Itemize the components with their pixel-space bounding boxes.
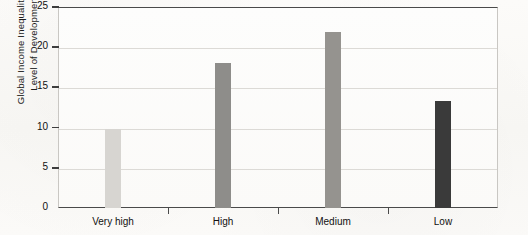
bar-medium: [325, 32, 341, 208]
x-axis-tick-mark: [278, 208, 279, 214]
gridline: [59, 169, 497, 170]
plot-area: [58, 7, 498, 208]
y-axis-title: Global Income Inequality by Level of Dev…: [15, 0, 45, 133]
y-axis-tick-mark: [52, 6, 59, 8]
gridline: [59, 48, 497, 49]
bar-chart-figure: Global Income Inequality by Level of Dev…: [0, 0, 528, 235]
bar-low: [435, 101, 451, 208]
x-axis-label-medium: Medium: [278, 216, 388, 227]
x-axis-tick-mark: [388, 208, 389, 214]
x-axis-label-high: High: [168, 216, 278, 227]
x-axis-label-low: Low: [388, 216, 498, 227]
y-axis-tick-mark: [52, 127, 59, 129]
y-axis-tick-mark: [52, 86, 59, 88]
y-axis-tick-label: 15: [22, 80, 48, 91]
bar-very-high: [105, 129, 121, 208]
gridline: [59, 88, 497, 89]
bar-high: [215, 63, 231, 208]
y-axis-tick-mark: [52, 167, 59, 169]
x-axis-tick-mark: [168, 208, 169, 214]
y-axis-tick-mark: [52, 46, 59, 48]
y-axis-tick-label: 0: [22, 201, 48, 212]
y-axis-tick-label: 5: [22, 161, 48, 172]
y-axis-tick-label: 10: [22, 121, 48, 132]
y-axis-tick-label: 20: [22, 40, 48, 51]
x-axis-label-very-high: Very high: [58, 216, 168, 227]
gridline: [59, 129, 497, 130]
y-axis-tick-label: 25: [22, 0, 48, 11]
